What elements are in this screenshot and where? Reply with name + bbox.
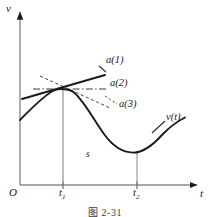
tangent-label-a2: a(2) bbox=[110, 78, 128, 89]
x-axis-label: t bbox=[200, 188, 203, 199]
velocity-time-plot bbox=[0, 0, 210, 217]
area-label-s: s bbox=[86, 150, 90, 160]
leader-line-a1 bbox=[99, 66, 106, 72]
leader-line-a3 bbox=[105, 96, 117, 104]
origin-label: O bbox=[9, 187, 17, 198]
leader-line-vt bbox=[152, 121, 165, 133]
velocity-curve bbox=[20, 89, 185, 152]
curve-label-vt: v(t) bbox=[166, 112, 181, 123]
x-tick-label-t1: t1 bbox=[59, 188, 65, 201]
tangent-label-a3: a(3) bbox=[119, 99, 137, 110]
axis-group bbox=[20, 12, 197, 185]
x-tick-label-t2: t2 bbox=[133, 188, 139, 201]
tangent-label-a1: a(1) bbox=[106, 55, 124, 66]
y-axis-label: v bbox=[6, 3, 11, 14]
x-tick-label-t1-sub: 1 bbox=[62, 193, 66, 201]
figure-container: v t O t1 t2 a(1) a(2) a(3) v(t) s 图 2-31 bbox=[0, 0, 210, 217]
figure-caption: 图 2-31 bbox=[0, 206, 210, 217]
x-tick-label-t2-sub: 2 bbox=[136, 193, 140, 201]
